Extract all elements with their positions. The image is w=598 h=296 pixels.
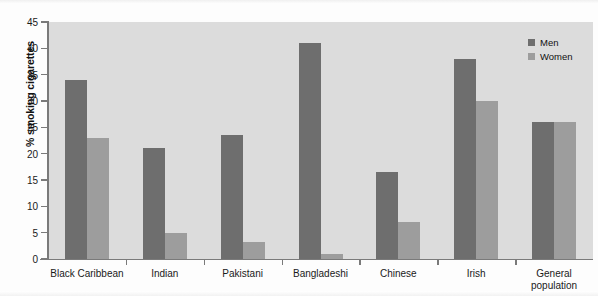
y-axis-tick-label: 25 (0, 122, 38, 133)
plot-area (48, 22, 593, 259)
y-axis-tick-label: 15 (0, 175, 38, 186)
x-axis-label: Black Caribbean (50, 268, 123, 280)
y-axis-tick-label: 40 (0, 43, 38, 54)
x-axis-tick (359, 259, 360, 265)
y-axis-tick (41, 232, 47, 233)
bar-women (243, 242, 265, 259)
bar-chart: % smoking cigarettes 051015202530354045 … (0, 0, 598, 296)
bar-men (376, 172, 398, 259)
y-axis-tick (41, 153, 47, 154)
x-axis-label: Pakistani (222, 268, 263, 280)
x-axis-line (40, 259, 593, 261)
y-axis-tick (41, 206, 47, 207)
x-axis-tick (515, 259, 516, 265)
bar-women (554, 122, 576, 259)
bar-women (398, 222, 420, 259)
y-axis-tick (41, 21, 47, 22)
y-axis-tick (41, 48, 47, 49)
y-axis-tick (41, 74, 47, 75)
y-axis-tick-label: 20 (0, 148, 38, 159)
x-axis-tick (204, 259, 205, 265)
x-axis-label: Indian (151, 268, 178, 280)
page-edge-top (0, 0, 598, 4)
legend-swatch-icon (528, 39, 535, 46)
legend-item: Men (528, 36, 573, 49)
x-axis-label: Bangladeshi (293, 268, 348, 280)
x-axis-label: Chinese (380, 268, 417, 280)
x-axis-tick (126, 259, 127, 265)
y-axis-line (47, 21, 49, 260)
legend-item: Women (528, 50, 573, 63)
x-axis-label: General population (531, 268, 577, 291)
y-axis-tick-label: 10 (0, 201, 38, 212)
bar-men (454, 59, 476, 259)
y-axis-tick-label: 0 (0, 254, 38, 265)
legend: MenWomen (528, 36, 573, 64)
bar-men (65, 80, 87, 259)
y-axis-tick (41, 127, 47, 128)
legend-label: Men (540, 37, 558, 48)
x-axis-label: Irish (467, 268, 486, 280)
y-axis-tick-label: 30 (0, 96, 38, 107)
bar-women (476, 101, 498, 259)
y-axis-tick (41, 179, 47, 180)
y-axis-tick-label: 5 (0, 227, 38, 238)
bar-men (299, 43, 321, 259)
bar-women (87, 138, 109, 259)
legend-label: Women (540, 51, 573, 62)
bar-men (221, 135, 243, 259)
bar-men (143, 148, 165, 259)
page-edge-bottom (0, 291, 598, 296)
y-axis-tick (41, 100, 47, 101)
x-axis-tick (437, 259, 438, 265)
y-axis-tick-label: 35 (0, 69, 38, 80)
bar-men (532, 122, 554, 259)
y-axis-tick-label: 45 (0, 17, 38, 28)
legend-swatch-icon (528, 53, 535, 60)
y-axis-tick (41, 258, 47, 259)
x-axis-tick (282, 259, 283, 265)
bar-women (165, 233, 187, 259)
